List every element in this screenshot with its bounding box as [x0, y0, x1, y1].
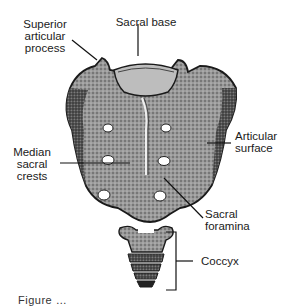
label-line: process [20, 42, 70, 54]
label-line: Median [8, 146, 56, 158]
label-median-sacral-crests: Median sacral crests [8, 146, 56, 182]
label-line: Superior [20, 18, 70, 30]
label-superior-articular-process: Superior articular process [20, 18, 70, 54]
coccyx-illustration [119, 226, 173, 287]
sacrum-body [66, 58, 236, 222]
bracket-coccyx [166, 232, 176, 290]
label-sacral-foramina: Sacral foramina [205, 208, 265, 232]
label-line: surface [235, 142, 291, 154]
leader-superior-articular-process [72, 40, 97, 60]
label-coccyx: Coccyx [201, 255, 261, 267]
label-line: sacral [8, 158, 56, 170]
label-line: Articular [235, 130, 291, 142]
label-line: foramina [205, 220, 265, 232]
label-line: articular [20, 30, 70, 42]
label-line: crests [8, 170, 56, 182]
label-sacral-base: Sacral base [106, 16, 186, 28]
figure-caption-partial: Figure … [18, 294, 67, 306]
label-line: Sacral [205, 208, 265, 220]
label-articular-surface: Articular surface [235, 130, 291, 154]
